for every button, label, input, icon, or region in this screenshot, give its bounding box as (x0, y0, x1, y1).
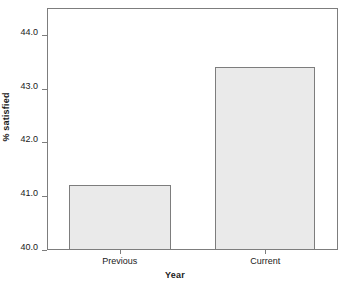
y-tick-mark (42, 35, 47, 36)
y-tick-label: 40.0 (20, 243, 38, 252)
y-axis-title: % satisfied (1, 67, 11, 167)
y-tick-label: 42.0 (20, 135, 38, 144)
y-tick-label: 41.0 (20, 189, 38, 198)
y-tick-mark (42, 196, 47, 197)
y-tick-mark (42, 142, 47, 143)
x-tick-label-current: Current (250, 256, 280, 266)
y-tick-label: 43.0 (20, 82, 38, 91)
bar-previous (69, 185, 171, 250)
x-tick-label-previous: Previous (102, 256, 137, 266)
bar-chart: 40.0 41.0 42.0 43.0 44.0 % satisfied Pre… (0, 0, 350, 287)
x-tick-mark-previous (120, 250, 121, 254)
x-axis-title: Year (0, 270, 350, 280)
y-tick-mark (42, 250, 47, 251)
bar-current (215, 67, 315, 250)
y-tick-mark (42, 89, 47, 90)
x-tick-mark-current (265, 250, 266, 254)
y-tick-label: 44.0 (20, 28, 38, 37)
